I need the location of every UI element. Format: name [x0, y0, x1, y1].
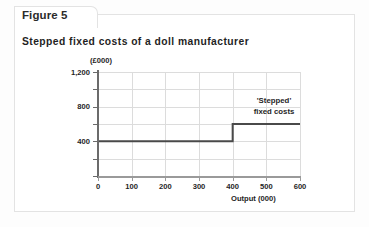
stepped-fixed-costs-line — [98, 124, 300, 141]
x-axis-tick-label: 100 — [117, 182, 147, 191]
x-axis-tick — [199, 177, 200, 181]
x-axis-tick — [165, 177, 166, 181]
y-axis-title: (£000) — [90, 56, 112, 65]
x-axis-tick — [233, 177, 234, 181]
x-axis-tick-label: 500 — [251, 182, 281, 191]
x-axis-tick-label: 0 — [83, 182, 113, 191]
y-axis-tick — [93, 124, 98, 125]
y-axis-tick — [93, 159, 98, 160]
y-axis-tick — [93, 72, 98, 73]
annotation-line-1: 'Stepped' — [243, 96, 305, 107]
stepped-fixed-costs-annotation: 'Stepped' fixed costs — [243, 96, 305, 117]
y-axis-tick — [93, 89, 98, 90]
chart-title: Stepped fixed costs of a doll manufactur… — [22, 36, 249, 47]
x-axis-tick-label: 600 — [285, 182, 315, 191]
x-axis-tick — [132, 177, 133, 181]
annotation-line-2: fixed costs — [243, 107, 305, 118]
x-axis-tick-label: 200 — [150, 182, 180, 191]
x-axis-title: Output (000) — [231, 194, 276, 203]
y-axis-tick — [93, 141, 98, 142]
y-axis-tick — [93, 107, 98, 108]
gridline-vertical — [300, 72, 301, 176]
plot-area — [98, 72, 300, 176]
x-axis-tick — [98, 177, 99, 181]
series-layer — [98, 72, 300, 176]
figure-tab-seam — [15, 25, 97, 30]
figure-tab-label: Figure 5 — [22, 9, 68, 21]
figure-container: Figure 5 Stepped fixed costs of a doll m… — [0, 0, 369, 227]
x-axis-tick-label: 400 — [218, 182, 248, 191]
y-axis-tick-label: 1,200 — [56, 68, 90, 77]
x-axis-tick — [300, 177, 301, 181]
y-axis-tick-label: 800 — [56, 102, 90, 111]
x-axis-tick — [266, 177, 267, 181]
x-axis-tick-label: 300 — [184, 182, 214, 191]
y-axis-tick-label: 400 — [56, 137, 90, 146]
